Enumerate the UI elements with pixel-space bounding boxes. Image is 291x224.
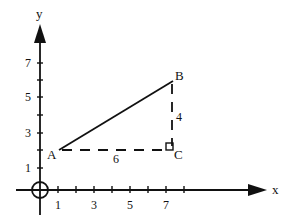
length-label-ac: 6 xyxy=(113,152,119,166)
y-tick-label-7: 7 xyxy=(25,56,31,70)
x-axis-label: x xyxy=(272,182,279,197)
segment-ab xyxy=(59,81,173,150)
y-tick-label-5: 5 xyxy=(25,90,31,104)
x-tick-label-1: 1 xyxy=(55,198,61,212)
y-tick-label-1: 1 xyxy=(25,161,31,175)
x-tick-label-5: 5 xyxy=(127,198,133,212)
x-tick-label-3: 3 xyxy=(91,198,97,212)
y-tick-label-3: 3 xyxy=(25,126,31,140)
x-tick-label-7: 7 xyxy=(163,198,169,212)
x-axis-arrow-icon xyxy=(248,184,267,196)
y-axis-label: y xyxy=(36,6,43,21)
coordinate-diagram: y x 1 3 5 7 1 3 5 7 A B C xyxy=(0,0,291,224)
point-label-c: C xyxy=(174,147,183,162)
y-axis-arrow-icon xyxy=(34,24,46,43)
point-label-a: A xyxy=(47,147,57,162)
point-label-b: B xyxy=(175,68,184,83)
length-label-bc: 4 xyxy=(176,110,182,124)
